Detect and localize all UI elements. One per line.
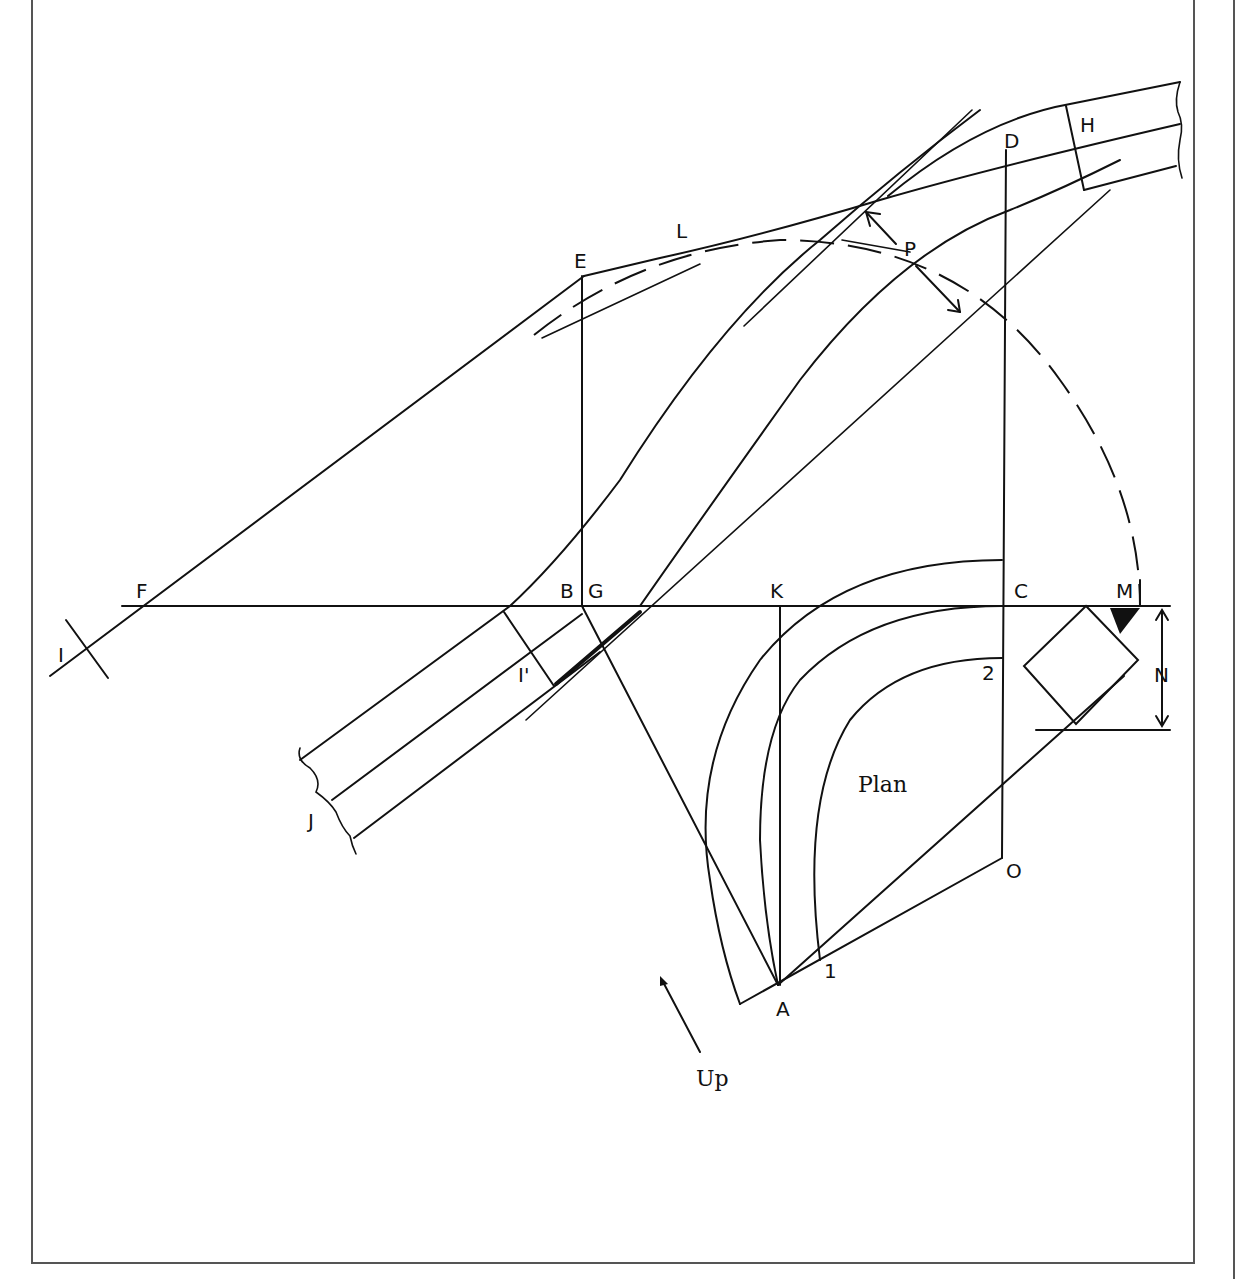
arrow-P-upper [866, 212, 896, 244]
label-F: F [136, 579, 148, 603]
plan-arc-outer [706, 560, 1002, 1004]
tick-I [66, 620, 108, 678]
break-line-right [1176, 82, 1182, 178]
break-line-J [299, 748, 356, 854]
tangent-line-E [542, 264, 700, 338]
arrow-P-lower [916, 266, 960, 312]
upper-outer-curve [888, 82, 1180, 196]
label-L: L [676, 219, 688, 243]
label-2: 2 [982, 661, 995, 685]
up-arrow [662, 980, 700, 1052]
up-label: Up [696, 1066, 729, 1091]
label-A: A [776, 997, 790, 1021]
handrail-curve-outer [510, 110, 980, 606]
label-1: 1 [824, 959, 837, 983]
up-arrowhead-icon [660, 976, 668, 986]
line-ELD [584, 124, 1180, 276]
diagonal-A-to-M [778, 676, 1124, 985]
tangent-line-upper [744, 110, 972, 326]
label-J: J [306, 809, 314, 833]
label-I: I [58, 643, 64, 667]
label-C: C [1014, 579, 1028, 603]
label-H: H [1080, 113, 1095, 137]
section-fill-marker [1110, 608, 1140, 634]
plan-label: Plan [858, 772, 907, 797]
label-K: K [770, 579, 784, 603]
rail-upper-left [300, 606, 510, 760]
label-D: D [1004, 129, 1019, 153]
label-E: E [574, 249, 587, 273]
label-I-prime: I' [518, 663, 529, 687]
label-M: M [1116, 579, 1133, 603]
dashed-arc [534, 240, 1140, 606]
rail-middle-left [332, 614, 582, 800]
page-frame [32, 0, 1194, 1263]
line-GA [582, 606, 778, 985]
label-B: B [560, 579, 574, 603]
vertical-DCO [1002, 150, 1006, 858]
line-IFE [50, 276, 584, 676]
label-N: N [1154, 663, 1169, 687]
geometric-construction-drawing: F I E L P D H B G K C M N 2 I' J O 1 A P… [0, 0, 1238, 1279]
label-O: O [1006, 859, 1022, 883]
lower-right-rail [1084, 166, 1176, 190]
label-G: G [588, 579, 604, 603]
label-P: P [904, 237, 916, 261]
